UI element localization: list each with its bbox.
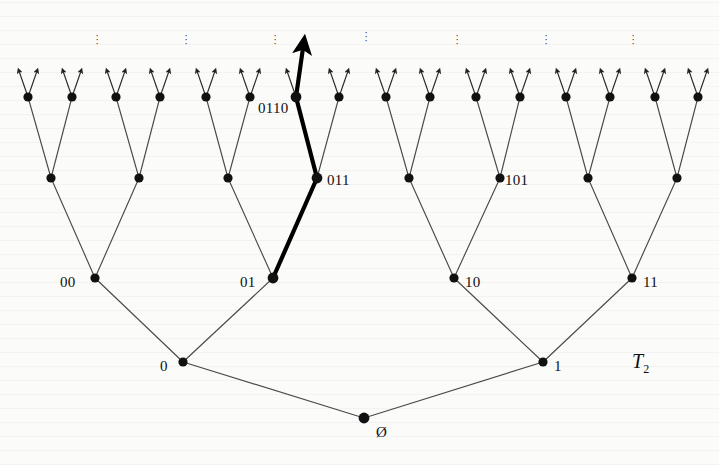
tree-name-label: T2	[632, 350, 649, 377]
tree-node	[268, 273, 279, 284]
tree-node	[201, 92, 210, 101]
node-0-label: 0	[160, 358, 168, 375]
ellipsis-5: ···	[453, 33, 461, 45]
ellipsis-7: ···	[629, 33, 637, 45]
ellipsis-6: ···	[542, 33, 550, 45]
tree-node	[291, 92, 302, 103]
tree-node	[223, 173, 232, 182]
tree-node	[90, 273, 99, 282]
tree-node	[111, 92, 120, 101]
node-011-label: 011	[327, 172, 350, 189]
tree-diagram-svg	[0, 0, 719, 465]
ellipsis-3: ···	[271, 33, 279, 45]
tree-node	[495, 173, 504, 182]
tree-node	[627, 273, 636, 282]
tree-node	[561, 92, 570, 101]
tree-node	[449, 273, 458, 282]
tree-node	[404, 173, 413, 182]
highlighted-branch	[273, 97, 317, 278]
tree-node	[605, 92, 614, 101]
node-01-label: 01	[240, 274, 256, 291]
ellipsis-4: ···	[362, 30, 370, 42]
tree-node	[155, 92, 164, 101]
tree-node	[583, 173, 592, 182]
tree-node	[538, 357, 547, 366]
tree-node	[178, 357, 187, 366]
tree-nodes	[23, 92, 702, 424]
tree-node	[23, 92, 32, 101]
node-101-label: 101	[505, 172, 528, 189]
node-11-label: 11	[643, 274, 658, 291]
node-1-label: 1	[554, 358, 562, 375]
tree-node	[425, 92, 434, 101]
tree-node	[515, 92, 524, 101]
tree-node	[381, 92, 390, 101]
tree-node	[46, 173, 55, 182]
tree-node	[693, 92, 702, 101]
tree-node	[471, 92, 480, 101]
tree-name-text: T	[632, 350, 643, 372]
ellipsis-2: ···	[182, 33, 190, 45]
tree-node	[650, 92, 659, 101]
tree-node	[359, 413, 370, 424]
node-0110-label: 0110	[258, 100, 289, 117]
tree-node	[134, 173, 143, 182]
tree-node	[334, 92, 343, 101]
tree-figure: Ø01000110110111010110 ··················…	[0, 0, 719, 465]
node-00-label: 00	[60, 274, 76, 291]
tree-name-subscript: 2	[643, 362, 649, 376]
ellipsis-1: ···	[93, 33, 101, 45]
tree-node	[245, 92, 254, 101]
root-label: Ø	[376, 424, 387, 441]
node-10-label: 10	[465, 274, 481, 291]
highlighted-branch-arrow	[296, 48, 303, 97]
tree-node	[67, 92, 76, 101]
tree-node	[312, 173, 323, 184]
leaf-arrow-group	[19, 71, 707, 97]
tree-edges	[28, 97, 698, 418]
tree-node	[672, 173, 681, 182]
